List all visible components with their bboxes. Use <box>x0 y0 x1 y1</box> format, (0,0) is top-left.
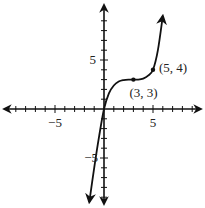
y-tick-label: −5 <box>84 150 98 165</box>
y-tick-label: 5 <box>90 52 97 67</box>
point-label: (5, 4) <box>159 60 187 75</box>
axes <box>4 5 201 204</box>
x-tick-label: 5 <box>150 115 157 130</box>
point-label: (3, 3) <box>129 85 157 100</box>
x-tick-label: −5 <box>48 115 62 130</box>
function-graph: −555−5 (3, 3)(5, 4) <box>0 0 205 208</box>
point-marker <box>131 77 135 81</box>
point-marker <box>151 68 155 72</box>
